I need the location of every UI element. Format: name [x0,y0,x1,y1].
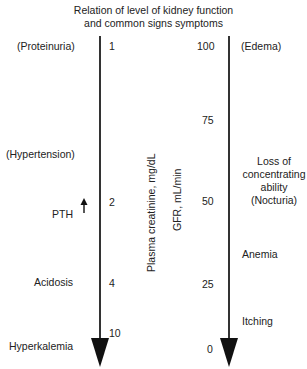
title-line-2: and common signs symptoms [0,17,307,30]
pth-increase-arrow-icon [80,198,88,214]
sign-loss-of-concentrating-ability: Loss of concentrating ability (Nocturia) [240,155,307,207]
gfr-tick-25: 25 [202,278,214,290]
sign-itching: Itching [242,315,273,327]
creatinine-axis-line [99,36,101,341]
gfr-tick-100: 100 [197,40,215,52]
title-line-1: Relation of level of kidney function [0,4,307,17]
creatinine-tick-10: 10 [109,327,121,339]
sign-pth: PTH [52,208,73,220]
sign-loss-line-1: Loss of [240,155,307,168]
sign-anemia: Anemia [242,248,278,260]
gfr-axis-line [228,36,230,341]
sign-edema: (Edema) [241,40,281,52]
creatinine-axis-label: Plasma creatinine, mg/dL [145,154,157,272]
creatinine-tick-2: 2 [109,196,115,208]
creatinine-tick-1: 1 [109,40,115,52]
diagram-title: Relation of level of kidney function and… [0,4,307,30]
creatinine-axis-arrowhead-icon [90,337,110,369]
sign-acidosis: Acidosis [34,276,73,288]
gfr-tick-0: 0 [207,343,213,355]
sign-loss-line-3: ability [240,181,307,194]
sign-hypertension: (Hypertension) [6,148,75,160]
sign-loss-line-4: (Nocturia) [240,194,307,207]
gfr-tick-75: 75 [202,114,214,126]
sign-proteinuria: (Proteinuria) [17,40,75,52]
creatinine-tick-4: 4 [109,277,115,289]
gfr-axis-arrowhead-icon [219,337,239,369]
sign-hyperkalemia: Hyperkalemia [9,340,73,352]
sign-loss-line-2: concentrating [240,168,307,181]
gfr-tick-50: 50 [202,195,214,207]
gfr-axis-label: GFR, mL/min [171,169,183,231]
